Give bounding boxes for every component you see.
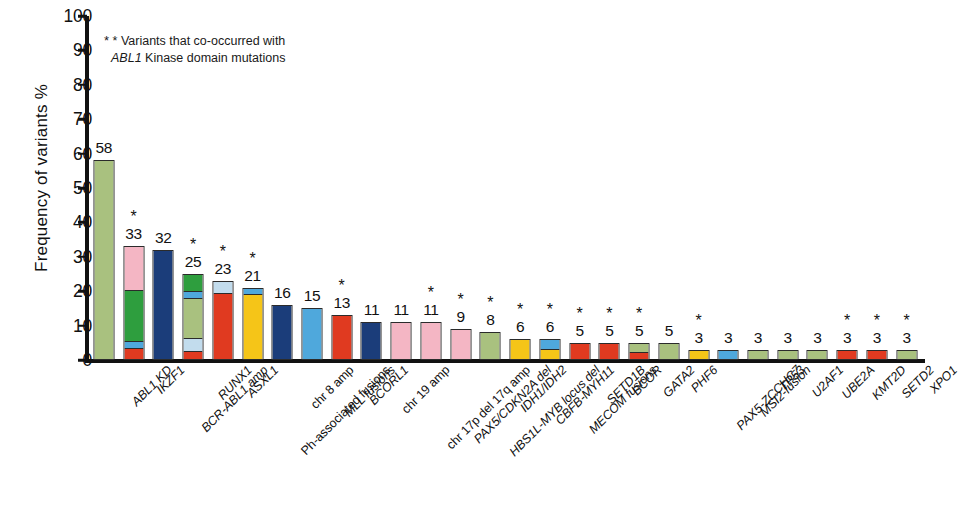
bar-asterisk-icon: * [547,306,553,314]
bar-segment [778,351,797,359]
bar-asterisk-icon: * [428,289,434,297]
bar-segment [897,351,916,359]
bar-segment [808,351,827,359]
x-tick-label: U2AF1 [809,363,846,400]
bar-value-label: 58 [96,139,113,157]
bar-asterisk-icon: * [844,317,850,325]
bar[interactable] [183,274,204,360]
bar-segment [213,294,232,359]
bar-slot: 5 [654,16,684,360]
bar[interactable] [331,315,352,360]
bar[interactable] [391,322,412,360]
bar-value-label: 13 [333,294,350,312]
bar-value-label: 11 [423,301,439,319]
bar-segment [303,309,322,359]
bar[interactable] [866,350,887,360]
bar[interactable] [480,332,501,360]
bar-value-label: 3 [784,329,792,347]
bar-slot: 3 [773,16,803,360]
bar[interactable] [153,250,174,360]
bar[interactable] [302,308,323,360]
bar[interactable] [272,305,293,360]
bar-slot: 3 [713,16,743,360]
bar-value-label: 8 [486,311,494,329]
bar-value-label: 3 [813,329,821,347]
bar-value-label: 23 [214,260,231,278]
bar-segment [362,323,381,359]
bar-segment [184,339,203,352]
bar[interactable] [539,339,560,360]
bar[interactable] [242,288,263,360]
bar-segment [540,350,559,359]
bar-asterisk-icon: * [339,282,345,290]
bar-asterisk-icon: * [487,299,493,307]
bar-slot: 8* [476,16,506,360]
bar[interactable] [93,160,114,360]
bar-value-label: 11 [393,301,409,319]
bar-value-label: 11 [364,301,380,319]
bar[interactable] [420,322,441,360]
bar-segment [243,295,262,359]
bar-value-label: 32 [155,229,172,247]
bar-value-label: 25 [185,253,202,271]
bar-slot: 32 [148,16,178,360]
bar[interactable] [123,246,144,360]
bar[interactable] [896,350,917,360]
bar-segment [659,344,678,359]
bar[interactable] [658,343,679,360]
bar-segment [570,344,589,359]
bar-asterisk-icon: * [517,306,523,314]
x-tick-label-text: U2AF1 [809,363,846,400]
bar-value-label: 3 [843,329,851,347]
bar[interactable] [748,350,769,360]
bar-segment [749,351,768,359]
bar-segment [273,306,292,359]
bar[interactable] [450,329,471,360]
bar-asterisk-icon: * [874,317,880,325]
bar[interactable] [510,339,531,360]
bar[interactable] [629,343,650,360]
bar-asterisk-icon: * [695,317,701,325]
bar[interactable] [837,350,858,360]
bar-segment [124,247,143,291]
bar-value-label: 3 [873,329,881,347]
bar-asterisk-icon: * [636,310,642,318]
bar-segment [867,351,886,359]
bar-segment [838,351,857,359]
bar-value-label: 16 [274,284,291,302]
bar-segment [600,344,619,359]
bar-slot: 58 [89,16,119,360]
bar-value-label: 6 [516,318,524,336]
bar-segment [184,275,203,292]
x-axis-labels: ABL1 KDIKZF1BCR-ABL1 ampRUNX1ASXL1Ph-ass… [85,363,925,513]
bar-slot: 5* [624,16,654,360]
bar[interactable] [807,350,828,360]
bar[interactable] [212,281,233,360]
bar-asterisk-icon: * [576,310,582,318]
bar-segment [124,342,143,349]
bar-value-label: 9 [457,308,465,326]
bar[interactable] [599,343,620,360]
bar-asterisk-icon: * [220,248,226,256]
bar-segment [243,289,262,296]
bar-segment [332,316,351,359]
bar[interactable] [777,350,798,360]
bar-slot: 3* [832,16,862,360]
bar-segment [184,352,203,359]
bar[interactable] [718,350,739,360]
bar-value-label: 15 [304,287,321,305]
bar-slot: 5* [594,16,624,360]
bar-slot: 3 [743,16,773,360]
bar-slot: 33* [119,16,149,360]
bar-slot: 11* [416,16,446,360]
bar-segment [124,291,143,342]
bar-value-label: 5 [605,322,613,340]
bar-slot: 3 [803,16,833,360]
bar[interactable] [361,322,382,360]
bar-value-label: 3 [903,329,911,347]
bar-slot: 3* [862,16,892,360]
bar[interactable] [569,343,590,360]
bar-segment [184,299,203,339]
bar[interactable] [688,350,709,360]
bar-value-label: 6 [546,318,554,336]
